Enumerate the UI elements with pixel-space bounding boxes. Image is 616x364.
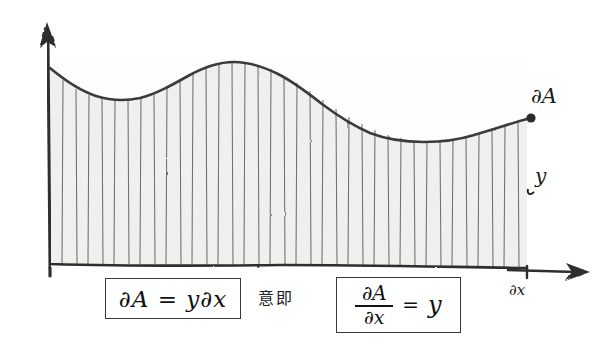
formula-left-text: ∂A = y∂x bbox=[119, 286, 227, 312]
equals-sign: = bbox=[402, 293, 419, 317]
area-under-curve bbox=[50, 62, 527, 268]
sketch-page: ∂A y ∂x ∂A = y∂x 意即 ∂A ∂x = y bbox=[0, 0, 616, 364]
label-partial-A: ∂A bbox=[531, 86, 557, 107]
annotation-cjk-note: 意即 bbox=[258, 285, 294, 309]
fraction-numerator: ∂A bbox=[359, 283, 390, 305]
label-partial-x: ∂x bbox=[509, 283, 525, 298]
fraction: ∂A ∂x bbox=[355, 283, 393, 328]
calculus-area-sketch bbox=[0, 0, 616, 364]
formula-box-derivative: ∂A ∂x = y bbox=[336, 277, 461, 333]
fraction-right-hand-side: y bbox=[428, 291, 442, 319]
formula-box-differential-area: ∂A = y∂x bbox=[105, 278, 241, 319]
label-y: y bbox=[535, 166, 546, 186]
fraction-denominator: ∂x bbox=[361, 307, 388, 328]
derivative-expression: ∂A ∂x = y bbox=[355, 283, 441, 328]
